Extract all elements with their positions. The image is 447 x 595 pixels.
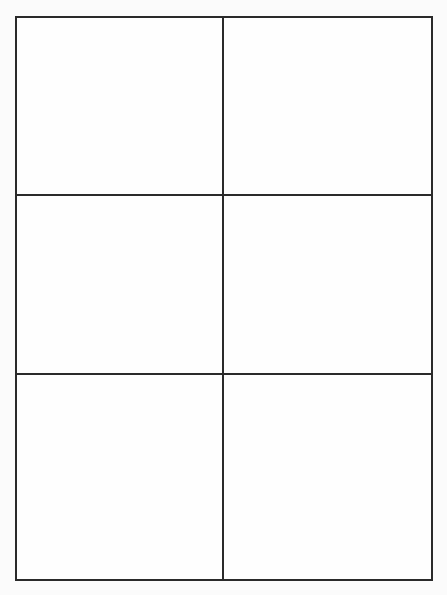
grid-cell-r2-c1: [17, 196, 224, 375]
grid-cell-r3-c2: [224, 375, 431, 579]
grid-cell-r2-c2: [224, 196, 431, 375]
grid-cell-r1-c1: [17, 18, 224, 196]
grid-cell-r1-c2: [224, 18, 431, 196]
grid-cell-r3-c1: [17, 375, 224, 579]
blank-grid-table: [15, 16, 433, 581]
